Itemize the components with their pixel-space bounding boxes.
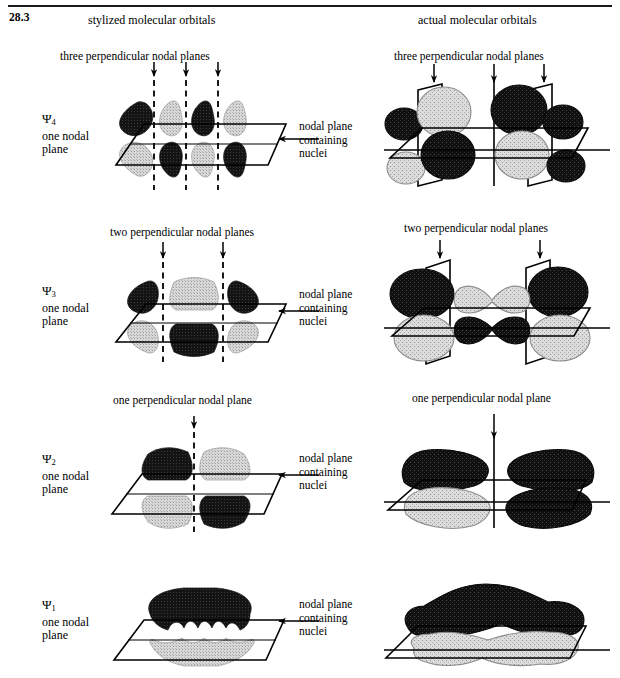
caption-perpendicular-planes-psi4: three perpendicular nodal planes: [60, 50, 210, 62]
psi-4-nodal-line-b: plane: [42, 142, 68, 156]
actual-orbital-psi4: [382, 62, 612, 194]
psi-symbol-3: Ψ: [42, 283, 52, 298]
lobe-top-left-psi2: [142, 448, 192, 480]
blob-lower-1-psi4: [387, 152, 425, 184]
blob-lower-right-psi3: [530, 315, 590, 361]
lobe-bottom-right-psi2: [200, 496, 250, 528]
blob-upper-4-psi4: [543, 105, 583, 139]
figure-page: 28.3 stylized molecular orbitals actual …: [0, 0, 620, 678]
stylized-orbital-psi1: [110, 580, 300, 676]
blob-lower-4-psi4: [547, 150, 585, 182]
psi-3-nodal-line-a: one nodal: [42, 301, 89, 315]
lobe-top-4-psi4: [224, 101, 247, 136]
psi-symbol-1: Ψ: [42, 597, 52, 612]
lobe-top-right-psi2: [200, 448, 250, 480]
psi-label-1: Ψ1 one nodal plane: [42, 598, 89, 643]
lobe-bottom-3-psi3: [228, 321, 259, 353]
lobe-top-2-psi3: [170, 278, 219, 311]
nodal-note-line1-2: nodal plane: [299, 452, 352, 464]
column-header-actual: actual molecular orbitals: [418, 13, 537, 28]
blob-upper-right-psi2: [508, 450, 594, 491]
caption-perpendicular-planes-psi4-actual: three perpendicular nodal planes: [394, 50, 544, 62]
column-header-stylized: stylized molecular orbitals: [88, 13, 215, 28]
lobe-bottom-4-psi4: [224, 142, 247, 177]
blob-upper-left-psi3: [390, 269, 454, 319]
blob-upper-2-psi4: [417, 87, 471, 137]
lobe-bottom-2-psi3: [170, 324, 219, 357]
psi-3-nodal-line-b: plane: [42, 314, 68, 328]
psi-2-nodal-line-b: plane: [42, 482, 68, 496]
lobe-bottom-psi1: [150, 638, 254, 666]
caption-perpendicular-planes-psi3-actual: two perpendicular nodal planes: [404, 222, 548, 234]
pointer-arrow-psi4: [275, 128, 321, 150]
psi-1-nodal-line-b: plane: [42, 628, 68, 642]
actual-orbital-psi3: [382, 238, 612, 368]
blob-center-upper-psi3: [454, 286, 530, 313]
psi-subscript-3: 3: [52, 289, 56, 299]
nodal-note-line1-3: nodal plane: [299, 288, 352, 300]
lobe-top-1-psi4: [120, 102, 153, 136]
psi-label-2: Ψ2 one nodal plane: [42, 452, 89, 497]
stylized-orbital-psi3: [110, 242, 300, 367]
blob-upper-psi1: [405, 584, 584, 637]
psi-label-4: Ψ4 one nodal plane: [42, 112, 89, 157]
lobe-bottom-left-psi2: [142, 496, 192, 528]
caption-perpendicular-planes-psi2-actual: one perpendicular nodal plane: [412, 392, 551, 404]
blob-lower-left-psi2: [404, 488, 490, 529]
actual-orbital-psi1: [382, 576, 612, 676]
psi-symbol-2: Ψ: [42, 451, 52, 466]
blob-lower-left-psi3: [394, 315, 454, 361]
caption-perpendicular-planes-psi2: one perpendicular nodal plane: [113, 394, 252, 406]
psi-symbol-4: Ψ: [42, 111, 52, 126]
blob-center-lower-psi3: [454, 317, 530, 344]
blob-upper-left-psi2: [402, 450, 488, 491]
lobe-top-3-psi4: [192, 101, 215, 136]
pointer-arrow-psi1: [275, 610, 321, 632]
blob-lower-psi1: [411, 631, 578, 665]
top-divider-rule: [8, 5, 612, 7]
nodal-note-line1-1: nodal plane: [299, 598, 352, 610]
lobe-bottom-2-psi4: [160, 142, 183, 177]
psi-4-nodal-line-a: one nodal: [42, 129, 89, 143]
lobe-top-psi1: [149, 588, 252, 630]
stylized-orbital-psi4: [110, 62, 300, 192]
stylized-orbital-psi2: [110, 418, 300, 536]
psi-subscript-2: 2: [52, 457, 56, 467]
psi-subscript-4: 4: [52, 117, 56, 127]
actual-orbital-psi2: [382, 410, 612, 540]
blob-upper-right-psi3: [528, 267, 588, 317]
lobe-bottom-3-psi4: [192, 142, 215, 177]
caption-perpendicular-planes-psi3: two perpendicular nodal planes: [110, 226, 254, 238]
pointer-arrow-psi2: [275, 464, 321, 486]
lobe-top-3-psi3: [228, 281, 259, 313]
psi-subscript-1: 1: [52, 603, 56, 613]
blob-lower-3-psi4: [495, 131, 549, 179]
lobe-top-2-psi4: [160, 101, 183, 136]
pointer-arrow-psi3: [275, 300, 321, 322]
psi-2-nodal-line-a: one nodal: [42, 469, 89, 483]
figure-number: 28.3: [9, 11, 30, 23]
lobe-bottom-1-psi3: [128, 321, 159, 353]
blob-lower-2-psi4: [421, 131, 475, 179]
psi-1-nodal-line-a: one nodal: [42, 615, 89, 629]
lobe-bottom-1-psi4: [120, 142, 153, 176]
psi-label-3: Ψ3 one nodal plane: [42, 284, 89, 329]
